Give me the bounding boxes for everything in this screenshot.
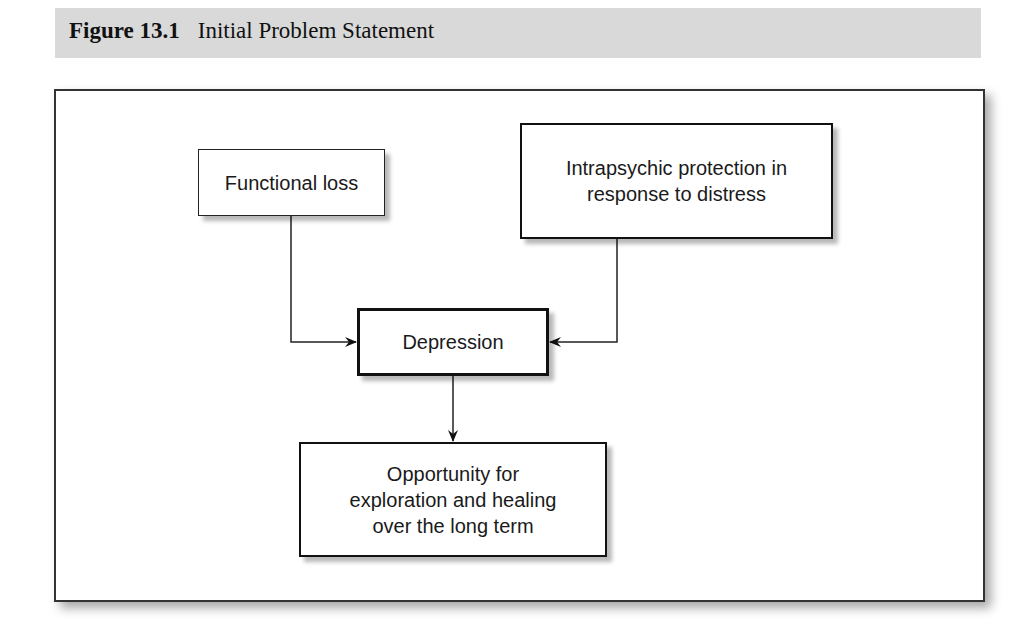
node-opportunity: Opportunity for exploration and healing … (299, 442, 607, 557)
node-label-line: Intrapsychic protection in (566, 155, 787, 181)
node-label-line: exploration and healing (350, 487, 557, 513)
figure-caption-bar: Figure 13.1Initial Problem Statement (55, 8, 981, 58)
figure-caption: Figure 13.1Initial Problem Statement (69, 18, 434, 44)
node-label-line: Opportunity for (350, 461, 557, 487)
node-label-line: over the long term (350, 513, 557, 539)
figure-number: Figure 13.1 (69, 18, 180, 43)
node-label: Functional loss (225, 170, 358, 196)
node-label: Opportunity for exploration and healing … (350, 461, 557, 539)
node-intrapsychic-protection: Intrapsychic protection in response to d… (520, 123, 833, 239)
figure-title: Initial Problem Statement (198, 18, 434, 43)
node-label: Intrapsychic protection in response to d… (566, 155, 787, 207)
node-depression: Depression (357, 308, 549, 376)
node-label-line: response to distress (566, 181, 787, 207)
node-functional-loss: Functional loss (198, 149, 385, 216)
node-label: Depression (402, 329, 503, 355)
